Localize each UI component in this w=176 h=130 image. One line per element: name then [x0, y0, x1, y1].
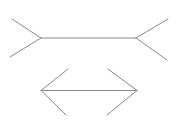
bottom-line-arrowheads-inward-fin-1: [41, 69, 68, 91]
top-line-fins-outward: [10, 19, 168, 60]
muller-lyer-illusion-figure: [0, 0, 176, 130]
top-line-fins-outward-fin-4: [136, 38, 167, 60]
top-line-fins-outward-fin-3: [136, 19, 168, 38]
bottom-line-arrowheads-inward: [41, 69, 137, 115]
top-line-fins-outward-fin-2: [10, 38, 41, 57]
bottom-line-arrowheads-inward-fin-4: [107, 91, 137, 116]
bottom-line-arrowheads-inward-fin-3: [108, 69, 137, 91]
bottom-line-arrowheads-inward-fin-2: [41, 91, 66, 116]
top-line-fins-outward-fin-1: [12, 19, 41, 38]
